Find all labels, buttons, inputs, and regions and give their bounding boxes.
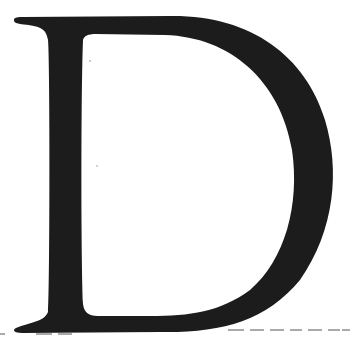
serif-d-glyph: [0, 0, 355, 343]
speck: [89, 60, 91, 62]
glyph-d-shape: [14, 16, 333, 333]
letter-specimen: D: [0, 0, 355, 343]
speck: [96, 165, 98, 167]
